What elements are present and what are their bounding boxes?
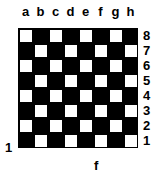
file-label-e: e xyxy=(78,4,93,20)
square-g6[interactable] xyxy=(108,58,123,73)
square-g1[interactable] xyxy=(108,133,123,148)
rank-label-3: 3 xyxy=(143,103,155,118)
square-f3[interactable] xyxy=(93,103,108,118)
square-h6[interactable] xyxy=(123,58,138,73)
square-a8[interactable] xyxy=(18,28,33,43)
square-b4[interactable] xyxy=(33,88,48,103)
left-annotation-label: 1 xyxy=(5,140,12,155)
square-h2[interactable] xyxy=(123,118,138,133)
square-c4[interactable] xyxy=(48,88,63,103)
square-e5[interactable] xyxy=(78,73,93,88)
square-d7[interactable] xyxy=(63,43,78,58)
square-b8[interactable] xyxy=(33,28,48,43)
square-d1[interactable] xyxy=(63,133,78,148)
square-d8[interactable] xyxy=(63,28,78,43)
square-e1[interactable] xyxy=(78,133,93,148)
square-a5[interactable] xyxy=(18,73,33,88)
file-label-f: f xyxy=(93,4,108,20)
square-b7[interactable] xyxy=(33,43,48,58)
square-h4[interactable] xyxy=(123,88,138,103)
square-h1[interactable] xyxy=(123,133,138,148)
square-a6[interactable] xyxy=(18,58,33,73)
square-c1[interactable] xyxy=(48,133,63,148)
rank-label-4: 4 xyxy=(143,88,155,103)
square-d3[interactable] xyxy=(63,103,78,118)
square-e4[interactable] xyxy=(78,88,93,103)
square-g2[interactable] xyxy=(108,118,123,133)
square-h3[interactable] xyxy=(123,103,138,118)
square-d2[interactable] xyxy=(63,118,78,133)
square-b3[interactable] xyxy=(33,103,48,118)
rank-label-7: 7 xyxy=(143,43,155,58)
square-d4[interactable] xyxy=(63,88,78,103)
square-a3[interactable] xyxy=(18,103,33,118)
square-f2[interactable] xyxy=(93,118,108,133)
square-f4[interactable] xyxy=(93,88,108,103)
square-f5[interactable] xyxy=(93,73,108,88)
file-label-a: a xyxy=(18,4,33,20)
chess-board[interactable] xyxy=(18,28,138,148)
square-c7[interactable] xyxy=(48,43,63,58)
rank-label-8: 8 xyxy=(143,28,155,43)
square-c8[interactable] xyxy=(48,28,63,43)
square-e2[interactable] xyxy=(78,118,93,133)
square-e3[interactable] xyxy=(78,103,93,118)
square-b5[interactable] xyxy=(33,73,48,88)
square-h8[interactable] xyxy=(123,28,138,43)
square-e6[interactable] xyxy=(78,58,93,73)
square-e8[interactable] xyxy=(78,28,93,43)
square-b1[interactable] xyxy=(33,133,48,148)
square-f8[interactable] xyxy=(93,28,108,43)
file-label-d: d xyxy=(63,4,78,20)
square-f1[interactable] xyxy=(93,133,108,148)
square-a1[interactable] xyxy=(18,133,33,148)
square-g4[interactable] xyxy=(108,88,123,103)
file-label-b: b xyxy=(33,4,48,20)
square-a7[interactable] xyxy=(18,43,33,58)
square-g5[interactable] xyxy=(108,73,123,88)
rank-label-1: 1 xyxy=(143,133,155,148)
square-b6[interactable] xyxy=(33,58,48,73)
file-label-g: g xyxy=(108,4,123,20)
square-d6[interactable] xyxy=(63,58,78,73)
square-h5[interactable] xyxy=(123,73,138,88)
square-f6[interactable] xyxy=(93,58,108,73)
file-label-c: c xyxy=(48,4,63,20)
square-c3[interactable] xyxy=(48,103,63,118)
square-g7[interactable] xyxy=(108,43,123,58)
rank-label-5: 5 xyxy=(143,73,155,88)
square-f7[interactable] xyxy=(93,43,108,58)
square-d5[interactable] xyxy=(63,73,78,88)
square-a2[interactable] xyxy=(18,118,33,133)
square-b2[interactable] xyxy=(33,118,48,133)
bottom-annotation-label: f xyxy=(94,158,98,173)
square-g8[interactable] xyxy=(108,28,123,43)
file-label-h: h xyxy=(123,4,138,20)
rank-label-6: 6 xyxy=(143,58,155,73)
square-e7[interactable] xyxy=(78,43,93,58)
square-h7[interactable] xyxy=(123,43,138,58)
square-a4[interactable] xyxy=(18,88,33,103)
square-g3[interactable] xyxy=(108,103,123,118)
square-c6[interactable] xyxy=(48,58,63,73)
rank-label-2: 2 xyxy=(143,118,155,133)
square-c2[interactable] xyxy=(48,118,63,133)
square-c5[interactable] xyxy=(48,73,63,88)
